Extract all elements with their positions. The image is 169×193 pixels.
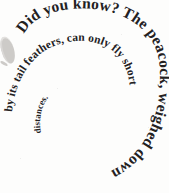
spiral-segment-turn-2: by its tail feathers, can only fly short <box>2 31 140 112</box>
spiral-text-canvas: Did you know? The peacock, weighed down … <box>0 0 169 193</box>
spiral-text-image: Did you know? The peacock, weighed down … <box>0 0 169 193</box>
spiral-segment-turn-1: Did you know? The peacock, weighed down <box>12 0 169 184</box>
spiral-segment-turn-3: distances. <box>32 93 50 135</box>
